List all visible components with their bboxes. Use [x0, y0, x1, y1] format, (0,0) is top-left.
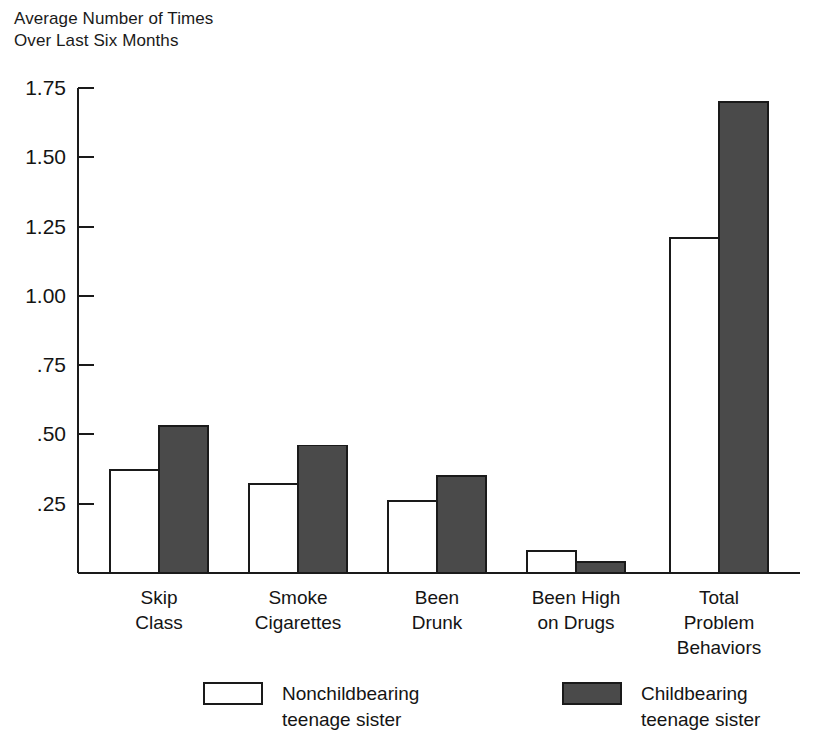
- category-label: SkipClass: [135, 587, 183, 633]
- y-tick-label: .50: [37, 422, 66, 445]
- y-tick-label: 1.25: [25, 215, 66, 238]
- legend-label: Nonchildbearingteenage sister: [282, 683, 419, 730]
- category-label: BeenDrunk: [412, 587, 463, 633]
- category-label: TotalProblemBehaviors: [677, 587, 762, 658]
- bar-childbearing: [159, 426, 208, 573]
- bar-nonchildbearing: [110, 470, 159, 573]
- chart-legend: Nonchildbearingteenage sisterChildbearin…: [204, 683, 761, 730]
- bar-series-group: [110, 102, 768, 573]
- legend-swatch-nonchildbearing: [204, 683, 262, 704]
- y-tick-label: 1.75: [25, 76, 66, 99]
- legend-label: Childbearingteenage sister: [641, 683, 761, 730]
- bar-childbearing: [719, 102, 768, 573]
- y-tick-label: 1.50: [25, 145, 66, 168]
- bar-nonchildbearing: [249, 484, 298, 573]
- chart-container: Average Number of Times Over Last Six Mo…: [0, 0, 826, 744]
- bar-childbearing: [576, 562, 625, 573]
- x-axis-category-labels: SkipClassSmokeCigarettesBeenDrunkBeen Hi…: [135, 587, 761, 658]
- y-tick-label: .75: [37, 353, 66, 376]
- y-tick-label: .25: [37, 492, 66, 515]
- category-label: Been Highon Drugs: [532, 587, 621, 633]
- bar-childbearing: [298, 446, 347, 573]
- bar-nonchildbearing: [388, 501, 437, 573]
- legend-swatch-childbearing: [563, 683, 621, 704]
- bar-childbearing: [437, 476, 486, 573]
- category-label: SmokeCigarettes: [255, 587, 342, 633]
- bar-chart-plot: 1.751.501.251.00.75.50.25 SkipClassSmoke…: [0, 0, 826, 744]
- y-axis-ticks: 1.751.501.251.00.75.50.25: [25, 76, 94, 515]
- y-tick-label: 1.00: [25, 284, 66, 307]
- bar-nonchildbearing: [527, 551, 576, 573]
- bar-nonchildbearing: [670, 238, 719, 573]
